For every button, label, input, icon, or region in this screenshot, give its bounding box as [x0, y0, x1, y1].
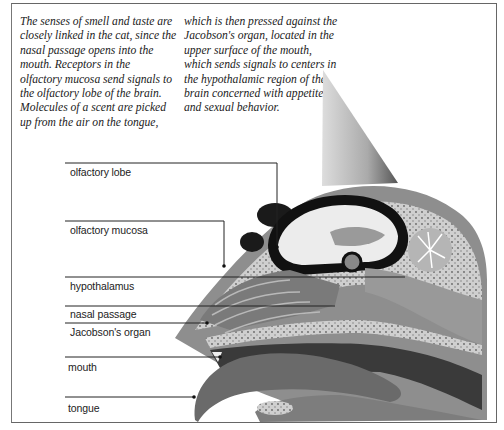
label-hypothalamus: hypothalamus [70, 280, 134, 292]
label-nasal-passage: nasal passage [70, 308, 136, 320]
label-tongue: tongue [68, 402, 100, 414]
hypothalamus-region [343, 253, 361, 271]
ear-shape [322, 70, 398, 186]
label-olfactory-lobe: olfactory lobe [70, 166, 131, 178]
label-mouth: mouth [68, 361, 97, 373]
sinus-cavity [240, 232, 264, 252]
label-jacobsons-organ: Jacobson's organ [70, 326, 150, 338]
label-olfactory-mucosa: olfactory mucosa [70, 224, 148, 236]
jaw-bone [257, 401, 293, 415]
